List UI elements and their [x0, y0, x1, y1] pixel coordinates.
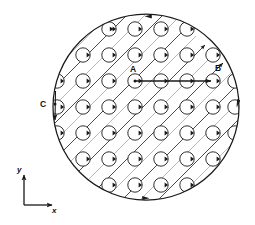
- x-axis-label: x: [51, 206, 57, 215]
- point-c-marker: [54, 103, 57, 106]
- label-b: B: [215, 63, 221, 73]
- point-a-marker: [134, 80, 137, 83]
- vortex-lattice: [50, 22, 242, 192]
- y-axis-label: y: [16, 165, 22, 174]
- coordinate-axes: y x: [16, 165, 57, 215]
- figure-container: A B C y x: [0, 0, 255, 225]
- physics-schematic-figure: A B C y x: [0, 0, 255, 225]
- displacement-arrow-ab: [134, 80, 212, 83]
- label-a: A: [130, 64, 136, 74]
- edge-current-arrow-c: [55, 91, 56, 120]
- label-c: C: [40, 99, 46, 109]
